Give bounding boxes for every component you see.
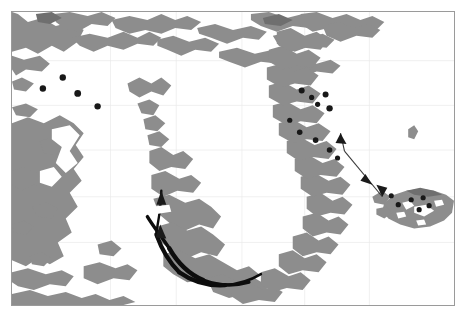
site-marker[interactable] bbox=[335, 155, 340, 160]
site-marker[interactable] bbox=[313, 137, 319, 143]
site-marker[interactable] bbox=[421, 195, 426, 200]
site-marker[interactable] bbox=[326, 105, 332, 111]
map-figure bbox=[0, 0, 468, 318]
site-marker[interactable] bbox=[94, 103, 100, 109]
site-marker[interactable] bbox=[417, 207, 422, 212]
site-marker[interactable] bbox=[309, 95, 314, 100]
site-marker[interactable] bbox=[323, 91, 329, 97]
site-marker[interactable] bbox=[287, 118, 292, 123]
site-marker[interactable] bbox=[40, 85, 46, 91]
site-marker[interactable] bbox=[427, 203, 432, 208]
map-frame[interactable] bbox=[11, 11, 455, 306]
site-marker[interactable] bbox=[60, 74, 66, 80]
site-marker[interactable] bbox=[297, 129, 303, 135]
site-marker[interactable] bbox=[299, 87, 305, 93]
site-marker[interactable] bbox=[409, 197, 414, 202]
site-marker[interactable] bbox=[396, 202, 401, 207]
site-marker[interactable] bbox=[74, 90, 81, 97]
site-marker[interactable] bbox=[389, 193, 394, 198]
site-marker[interactable] bbox=[315, 102, 320, 107]
site-marker[interactable] bbox=[327, 147, 333, 153]
map-canvas[interactable] bbox=[12, 12, 454, 305]
